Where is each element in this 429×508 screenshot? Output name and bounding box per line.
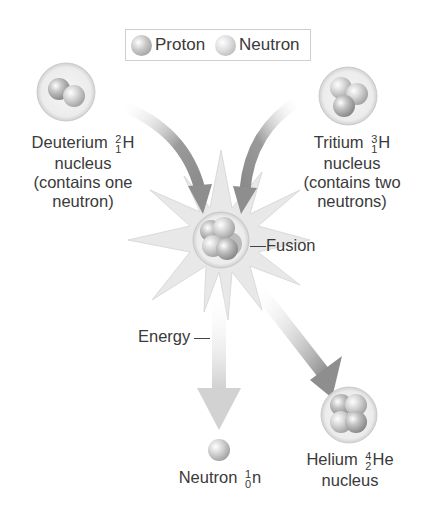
tritium-isotope-notation: 3 1	[371, 134, 377, 154]
tritium-nucleus	[319, 67, 377, 125]
deuterium-line3: (contains one	[18, 173, 148, 192]
proton-ball-icon	[131, 35, 152, 56]
atomic-number: 1	[371, 144, 377, 154]
deuterium-label: Deuterium 2 1 H nucleus (contains one ne…	[18, 133, 148, 211]
energy-leader-line	[194, 338, 210, 339]
deuterium-nucleus	[37, 63, 95, 121]
fused-nucleus	[193, 212, 249, 268]
legend-neutron-label: Neutron	[239, 35, 299, 55]
neutron-particle	[208, 439, 230, 461]
element-symbol: H	[378, 133, 390, 151]
neutron-isotope-notation: 1 0	[245, 469, 251, 489]
neutron-name: Neutron	[179, 468, 238, 486]
helium-label: Helium 4 2 He nucleus	[294, 450, 406, 490]
tritium-line4: neutrons)	[290, 192, 414, 211]
tritium-line3: (contains two	[290, 173, 414, 192]
helium-arrow	[255, 285, 342, 398]
legend-proton-label: Proton	[155, 35, 205, 55]
element-symbol: n	[252, 468, 261, 486]
tritium-name: Tritium	[314, 133, 364, 151]
neutron-product-label: Neutron 1 0 n	[160, 468, 280, 489]
atomic-number: 1	[115, 144, 121, 154]
diagram-art	[0, 0, 429, 508]
tritium-label: Tritium 3 1 H nucleus (contains two neut…	[290, 133, 414, 211]
helium-line2: nucleus	[294, 471, 406, 490]
element-symbol: He	[372, 450, 393, 468]
fusion-diagram: Proton Neutron Deuterium 2 1 H nucleus (…	[0, 0, 429, 508]
fusion-leader-line	[250, 246, 266, 247]
deuterium-line2: nucleus	[18, 154, 148, 173]
deuterium-name: Deuterium	[32, 133, 108, 151]
neutron-ball-icon	[215, 35, 236, 56]
fusion-label: Fusion	[266, 236, 316, 255]
tritium-line2: nucleus	[290, 154, 414, 173]
legend: Proton Neutron	[125, 29, 311, 61]
element-symbol: H	[122, 133, 134, 151]
helium-isotope-notation: 4 2	[365, 451, 371, 471]
deuterium-line4: neutron)	[18, 192, 148, 211]
atomic-number: 0	[245, 479, 251, 489]
helium-name: Helium	[306, 450, 357, 468]
deuterium-isotope-notation: 2 1	[115, 134, 121, 154]
atomic-number: 2	[365, 461, 371, 471]
helium-nucleus	[321, 387, 377, 443]
energy-label: Energy	[138, 327, 190, 346]
